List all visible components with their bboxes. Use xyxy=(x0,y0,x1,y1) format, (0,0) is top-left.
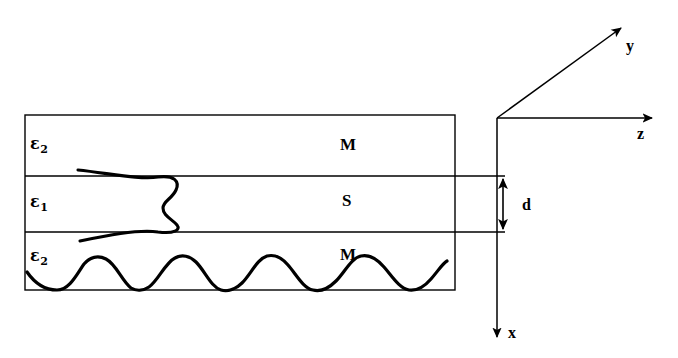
waveguide-diagram: ε2 ε1 ε2 M S M d y z x xyxy=(0,0,678,358)
corrugation-wave-curve xyxy=(27,255,447,290)
permittivity-symbol: ε xyxy=(30,192,40,211)
axis-label-y: y xyxy=(626,38,634,54)
permittivity-symbol: ε xyxy=(30,246,40,265)
dimension-label-d: d xyxy=(522,197,531,213)
material-label-lower-metal: M xyxy=(340,246,356,263)
stack-outline xyxy=(25,115,455,290)
permittivity-label-semiconductor: ε1 xyxy=(30,194,48,213)
permittivity-symbol: ε xyxy=(30,134,40,153)
material-label-upper-metal: M xyxy=(340,136,356,153)
permittivity-subscript: 2 xyxy=(40,143,48,156)
material-label-semiconductor: S xyxy=(342,192,351,209)
permittivity-subscript: 2 xyxy=(40,255,48,268)
axis-label-x: x xyxy=(508,325,516,341)
permittivity-subscript: 1 xyxy=(40,201,48,214)
axis-y-line xyxy=(497,28,621,118)
permittivity-label-upper-metal: ε2 xyxy=(30,136,48,155)
mode-field-profile-curve xyxy=(78,170,178,241)
axis-label-z: z xyxy=(637,126,644,142)
diagram-canvas xyxy=(0,0,678,358)
permittivity-label-lower-metal: ε2 xyxy=(30,248,48,267)
